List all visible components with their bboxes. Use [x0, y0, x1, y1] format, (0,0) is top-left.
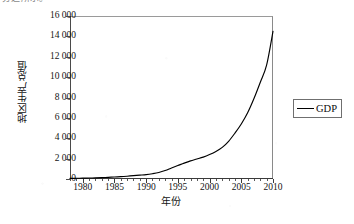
x-tick-mark-minor [152, 179, 153, 181]
gdp-line-chart-figure: 16 00014 00012 00010 0008 0006 0004 0002… [0, 0, 354, 224]
x-tick-mark-minor [235, 179, 236, 181]
x-axis-title: 年份 [161, 196, 182, 207]
x-tick-mark-minor [197, 179, 198, 181]
x-tick-mark-minor [260, 179, 261, 181]
legend-label-gdp: GDP [316, 103, 337, 114]
x-tick-mark-minor [184, 179, 185, 181]
x-tick-mark-minor [70, 179, 71, 181]
x-tick-mark-minor [121, 179, 122, 181]
gdp-series-curve [70, 16, 273, 179]
x-tick-mark-minor [216, 179, 217, 181]
x-tick-mark-minor [172, 179, 173, 181]
x-tick-mark-minor [76, 179, 77, 181]
x-tick-label: 1980 [73, 183, 92, 193]
x-tick-mark-minor [133, 179, 134, 181]
x-tick-label: 2000 [200, 183, 219, 193]
x-tick-mark-minor [229, 179, 230, 181]
x-tick-mark-minor [108, 179, 109, 181]
x-tick-label: 2010 [264, 183, 283, 193]
x-tick-label: 1990 [137, 183, 156, 193]
x-tick-mark-minor [102, 179, 103, 181]
x-tick-mark-minor [165, 179, 166, 181]
x-tick-mark-minor [248, 179, 249, 181]
x-tick-label: 2005 [232, 183, 251, 193]
x-tick-mark-minor [267, 179, 268, 181]
x-tick-mark-minor [89, 179, 90, 181]
x-tick-mark-minor [254, 179, 255, 181]
x-tick-mark-minor [140, 179, 141, 181]
legend-line-swatch [297, 108, 314, 109]
y-axis-title: 地区生产总值 [17, 60, 31, 123]
x-tick-mark-minor [95, 179, 96, 181]
chart-legend: GDP [293, 99, 342, 118]
x-tick-mark-minor [222, 179, 223, 181]
x-tick-mark-minor [191, 179, 192, 181]
x-tick-mark-minor [203, 179, 204, 181]
x-tick-mark-minor [159, 179, 160, 181]
x-tick-label: 1985 [105, 183, 124, 193]
x-tick-label: 1995 [168, 183, 187, 193]
x-tick-mark-minor [127, 179, 128, 181]
